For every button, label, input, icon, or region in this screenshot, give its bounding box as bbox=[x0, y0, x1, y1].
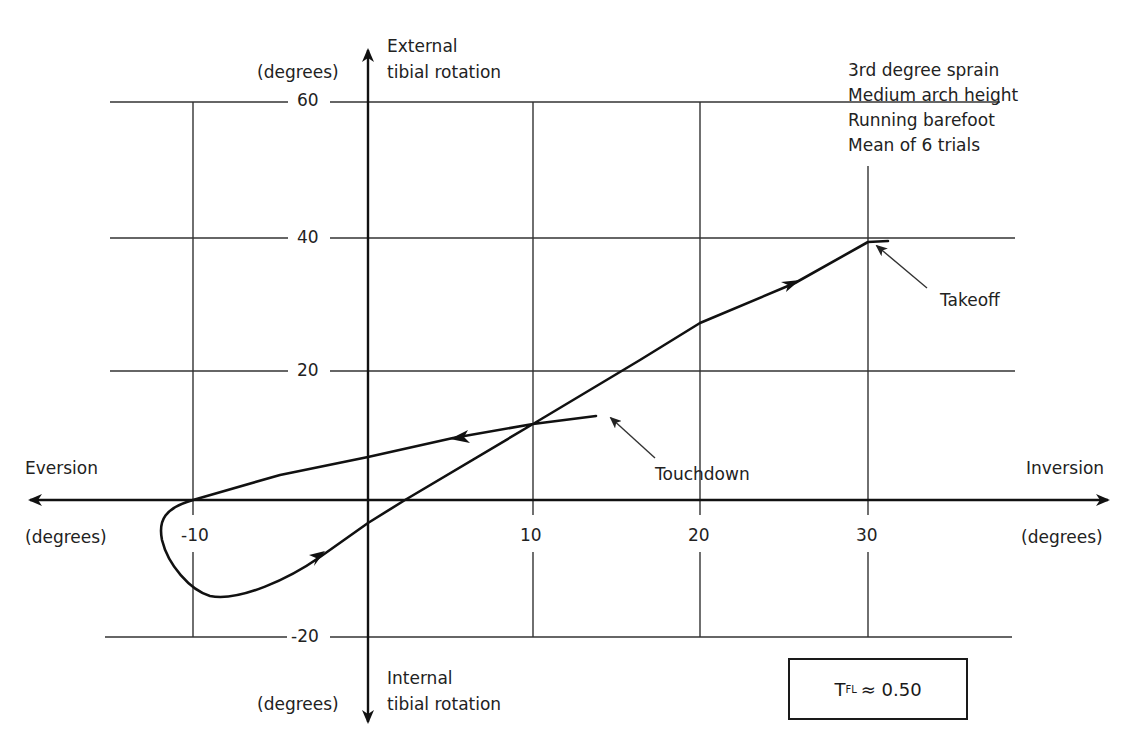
tfl-value: ≈ 0.50 bbox=[861, 679, 922, 700]
y-axis-top-unit: (degrees) bbox=[257, 62, 339, 82]
x-axis-left-unit: (degrees) bbox=[25, 527, 107, 547]
direction-arrows bbox=[309, 280, 800, 566]
takeoff-pointer bbox=[877, 246, 927, 288]
condition-info-block: 3rd degree sprain Medium arch height Run… bbox=[848, 58, 1018, 158]
info-line-trials: Mean of 6 trials bbox=[848, 133, 1018, 158]
x-axis-right-unit: (degrees) bbox=[1021, 527, 1103, 547]
y-axis-top-title-line2: tibial rotation bbox=[387, 62, 501, 82]
y-tick-neg20: -20 bbox=[287, 626, 323, 646]
arrow-upright-icon-2 bbox=[781, 280, 800, 292]
tfl-symbol: T bbox=[834, 679, 845, 700]
y-axis-top-title-line1: External bbox=[387, 36, 458, 56]
touchdown-label: Touchdown bbox=[655, 464, 750, 484]
x-tick-neg10: -10 bbox=[181, 525, 209, 545]
horizontal-gridlines bbox=[105, 102, 1015, 637]
x-tick-30: 30 bbox=[856, 525, 878, 545]
x-axis-right-title: Inversion bbox=[1026, 458, 1104, 478]
x-tick-20: 20 bbox=[688, 525, 710, 545]
info-line-arch: Medium arch height bbox=[848, 83, 1018, 108]
info-line-barefoot: Running barefoot bbox=[848, 108, 1018, 133]
y-axis-bottom-title-line1: Internal bbox=[387, 668, 453, 688]
touchdown-pointer bbox=[611, 418, 655, 458]
x-tick-10: 10 bbox=[520, 525, 542, 545]
annotation-pointers bbox=[611, 246, 927, 458]
y-tick-40: 40 bbox=[293, 227, 323, 247]
y-axis-bottom-unit: (degrees) bbox=[257, 694, 339, 714]
y-tick-20: 20 bbox=[293, 360, 323, 380]
y-tick-60: 60 bbox=[293, 90, 323, 110]
y-axis-bottom-title-line2: tibial rotation bbox=[387, 694, 501, 714]
tfl-subscript: FL bbox=[845, 684, 856, 695]
info-line-sprain: 3rd degree sprain bbox=[848, 58, 1018, 83]
takeoff-label: Takeoff bbox=[940, 290, 1000, 310]
tfl-summary-box: TFL ≈ 0.50 bbox=[788, 658, 968, 720]
x-axis-left-title: Eversion bbox=[25, 458, 98, 478]
